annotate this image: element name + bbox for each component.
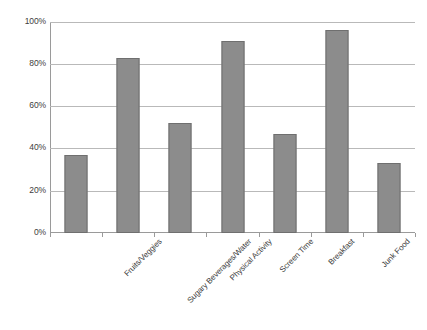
y-tick-label: 20% xyxy=(4,186,46,195)
x-label-fruits-veggies: Fruits/Veggies xyxy=(122,237,163,278)
y-tick-label: 100% xyxy=(4,17,46,26)
bar-slot xyxy=(154,22,206,233)
bar-slot xyxy=(102,22,154,233)
bar-slot xyxy=(363,22,415,233)
bar-slot xyxy=(311,22,363,233)
y-tick-label: 40% xyxy=(4,143,46,152)
bar-chart: 100% 80% 60% 40% 20% 0% xyxy=(0,0,427,330)
bar-junk-food[interactable] xyxy=(326,30,349,233)
bar-physical-activity[interactable] xyxy=(169,123,192,233)
bar-slot xyxy=(206,22,259,233)
bar-slot xyxy=(50,22,102,233)
bar-slot xyxy=(259,22,311,233)
y-tick-label: 80% xyxy=(4,59,46,68)
x-label-junk-food: Junk Food xyxy=(380,237,412,269)
bar-breakfast[interactable] xyxy=(274,134,297,233)
x-tick xyxy=(415,233,416,237)
plot-area xyxy=(50,22,415,233)
x-label-breakfast: Breakfast xyxy=(327,237,357,267)
bar-sugary-beverages-water[interactable] xyxy=(117,58,140,233)
bar-mental-resilience[interactable] xyxy=(378,163,401,233)
y-tick-label: 60% xyxy=(4,101,46,110)
y-axis-tick-labels: 100% 80% 60% 40% 20% 0% xyxy=(0,0,46,330)
y-tick-label: 0% xyxy=(4,228,46,237)
bar-screen-time[interactable] xyxy=(221,41,244,233)
x-axis-category-labels: Fruits/Veggies Sugary Beverages/Water Ph… xyxy=(50,237,415,330)
bar-fruits-veggies[interactable] xyxy=(65,155,88,233)
x-label-screen-time: Screen Time xyxy=(278,237,315,274)
